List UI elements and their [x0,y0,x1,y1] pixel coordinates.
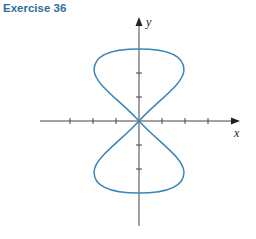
y-axis-arrow-icon [136,17,143,26]
x-axis-arrow-icon [231,118,240,125]
polar-graph: x y [0,0,256,239]
x-axis-label: x [233,126,240,140]
y-axis-label: y [145,15,152,29]
